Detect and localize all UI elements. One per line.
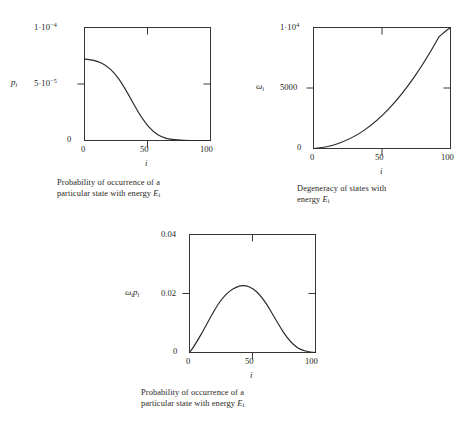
y-tick-label-mid-2: 5000 (280, 82, 297, 92)
panel-degeneracy-of-states: 1·104 5000 0 ωi 0 50 100 i Degeneracy of… (240, 0, 469, 215)
x-tick-label-0-2: 0 (310, 152, 314, 162)
y-tick-label-bottom-1: 0 (67, 134, 71, 144)
x-tick-label-0-1: 0 (81, 144, 85, 154)
figure-container: 1·10−4 5·10−5 0 pi 0 50 100 i Probabilit… (0, 0, 469, 423)
x-axis-title-1: i (145, 158, 147, 168)
caption-line1-2: Degeneracy of states with (297, 183, 386, 194)
axis-ticks-outer-1 (78, 84, 148, 148)
axes-frame-3 (190, 235, 316, 353)
y-tick-label-top-3: 0.04 (161, 229, 176, 239)
panel-probability-of-state: 1·10−4 5·10−5 0 pi 0 50 100 i Probabilit… (0, 0, 240, 215)
panel-probability-product: 0.04 0.02 0 ωipi 0 50 100 i Probability … (100, 215, 360, 423)
axis-ticks-inner-1 (148, 28, 211, 85)
y-axis-title-2: ωi (256, 81, 264, 92)
x-tick-label-100-1: 100 (200, 144, 213, 154)
x-tick-label-100-3: 100 (305, 356, 318, 366)
y-tick-label-top-1: 1·10−4 (34, 22, 57, 32)
curve-degeneracy (314, 28, 451, 149)
y-tick-label-bottom-2: 0 (297, 142, 301, 152)
curve-probability (85, 59, 211, 140)
caption-line1-3: Probability of occurrence of a (141, 387, 244, 398)
x-axis-title-2: i (380, 166, 382, 176)
y-axis-title-3: ωipi (125, 287, 139, 298)
axis-ticks-inner-3 (253, 235, 316, 294)
x-tick-label-50-2: 50 (375, 152, 384, 162)
y-tick-label-top-2: 1·104 (280, 22, 299, 32)
plot-degeneracy-of-states (240, 0, 469, 175)
x-tick-label-100-2: 100 (441, 152, 454, 162)
y-tick-label-mid-1: 5·10−5 (34, 78, 57, 88)
axes-frame-1 (85, 28, 211, 141)
y-tick-label-bottom-3: 0 (173, 346, 177, 356)
x-tick-label-50-1: 50 (140, 144, 149, 154)
x-tick-label-0-3: 0 (186, 356, 190, 366)
x-axis-title-3: i (250, 370, 252, 380)
axis-ticks-inner-2 (382, 28, 451, 89)
axes-frame-2 (314, 28, 451, 149)
caption-line1-1: Probability of occurrence of a (57, 177, 160, 188)
y-tick-label-mid-3: 0.02 (161, 288, 176, 298)
caption-line2-3: particular state with energy Ei (141, 398, 244, 411)
curve-product (190, 286, 316, 353)
caption-line2-1: particular state with energy Ei (57, 188, 160, 201)
axis-ticks-outer-3 (183, 294, 253, 360)
x-tick-label-50-3: 50 (245, 356, 254, 366)
axis-ticks-outer-2 (307, 88, 383, 156)
caption-line2-2: energy Ei (297, 194, 329, 207)
y-axis-title-1: pi (11, 77, 17, 88)
